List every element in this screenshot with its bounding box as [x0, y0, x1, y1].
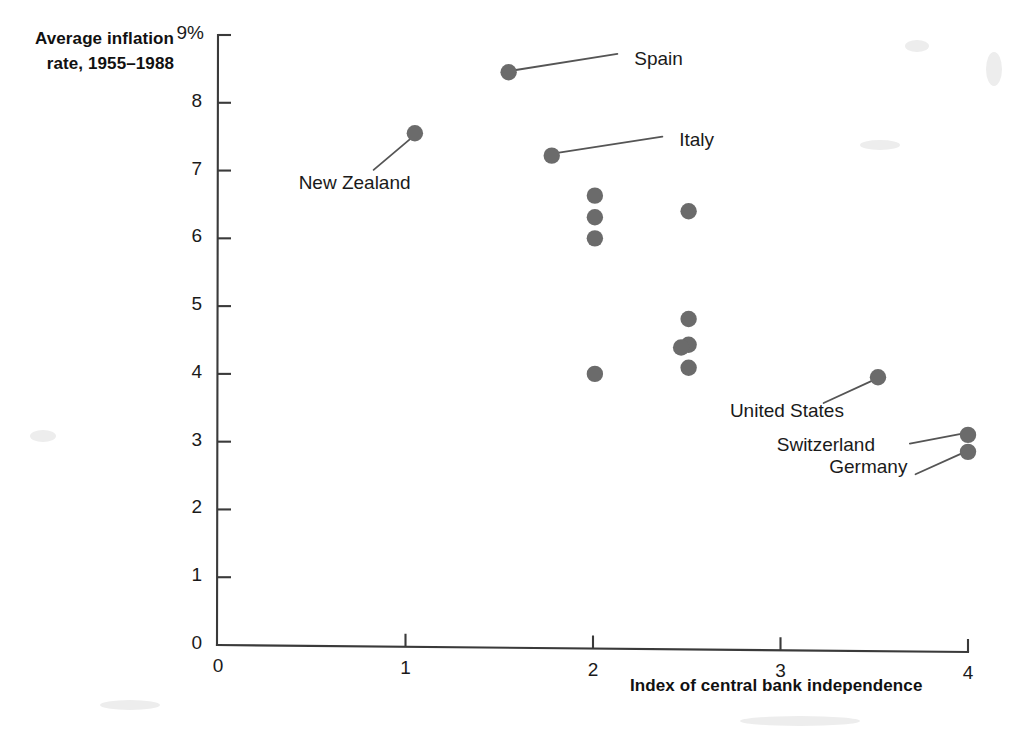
point-label-new-zealand: New Zealand [299, 172, 411, 194]
y-tick-label: 3 [156, 429, 202, 451]
point-label-spain: Spain [634, 48, 683, 70]
data-point [500, 64, 516, 80]
data-point [587, 209, 603, 225]
point-label-germany: Germany [829, 456, 907, 478]
y-tick-label: 5 [156, 293, 202, 315]
y-tick-label: 9% [156, 22, 204, 44]
point-label-italy: Italy [679, 129, 714, 151]
y-tick-label: 7 [156, 158, 202, 180]
data-point [680, 360, 696, 376]
data-point [960, 427, 976, 443]
y-tick-label: 8 [156, 90, 202, 112]
x-tick-label: 2 [573, 659, 613, 681]
data-point [960, 444, 976, 460]
data-point [680, 203, 696, 219]
data-point [407, 125, 423, 141]
scatter-chart-figure: Average inflation rate, 1955–1988 Index … [0, 0, 1013, 738]
y-tick-label: 2 [156, 496, 202, 518]
y-tick-label: 6 [156, 225, 202, 247]
axes [217, 35, 968, 652]
y-tick-label: 0 [156, 632, 202, 654]
y-tick-label: 4 [156, 361, 202, 383]
annotation-leader-lines [374, 54, 963, 474]
point-label-switzerland: Switzerland [777, 434, 875, 456]
data-point [544, 147, 560, 163]
data-points [407, 64, 977, 460]
y-tick-label: 1 [156, 564, 202, 586]
data-point [673, 339, 689, 355]
x-tick-label: 0 [198, 655, 238, 677]
data-point [680, 311, 696, 327]
x-tick-label: 4 [948, 662, 988, 684]
x-tick-label: 3 [761, 660, 801, 682]
data-point [870, 369, 886, 385]
data-point [587, 187, 603, 203]
plot-area [0, 0, 1013, 738]
x-tick-label: 1 [386, 657, 426, 679]
data-point [587, 230, 603, 246]
point-label-united-states: United States [730, 400, 844, 422]
data-point [587, 366, 603, 382]
